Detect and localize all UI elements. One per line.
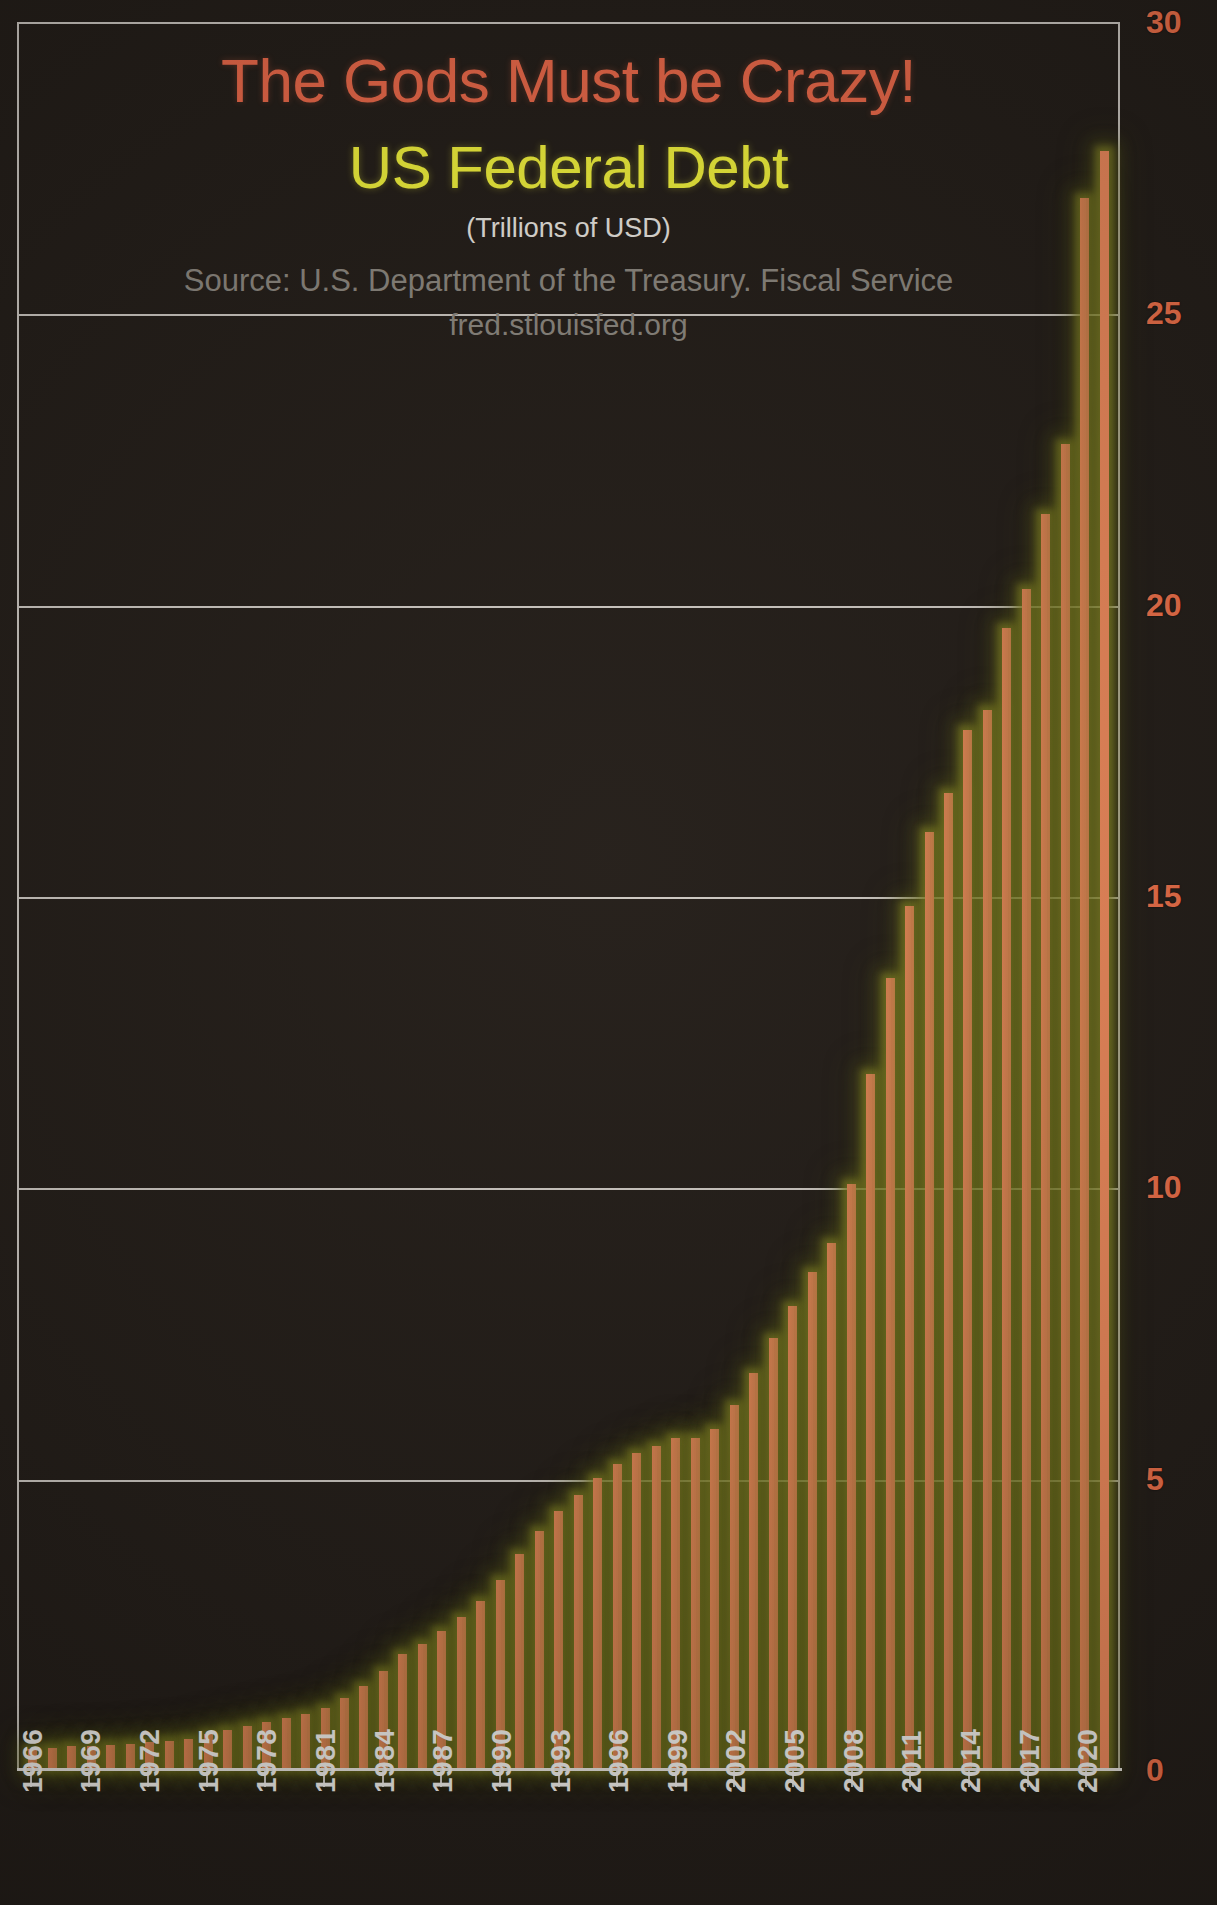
y-tick-label-0: 0 [1146, 1752, 1164, 1789]
y-tick-label-30: 30 [1146, 4, 1182, 41]
bar-slot [958, 24, 977, 1768]
bar-slot [393, 24, 412, 1768]
bar-slot [471, 24, 490, 1768]
y-tick-label-25: 25 [1146, 295, 1182, 332]
x-tick-slot: 1990 [490, 1771, 510, 1905]
bar-slot [549, 24, 568, 1768]
bar [301, 1714, 310, 1768]
bar-slot [81, 24, 100, 1768]
x-tick-slot [392, 1771, 412, 1905]
bar-slot [374, 24, 393, 1768]
bar [944, 793, 953, 1768]
bar-slot [237, 24, 256, 1768]
x-tick-slot: 1969 [80, 1771, 100, 1905]
bar [905, 906, 914, 1768]
bar-slot [666, 24, 685, 1768]
x-tick-slot: 1966 [21, 1771, 41, 1905]
bar-slot [530, 24, 549, 1768]
bar [730, 1405, 739, 1768]
bar-slot [822, 24, 841, 1768]
x-tick-slot: 1984 [373, 1771, 393, 1905]
bar-slot [432, 24, 451, 1768]
bar-slot [120, 24, 139, 1768]
bar [671, 1438, 680, 1768]
bar [632, 1453, 641, 1768]
bar [613, 1464, 622, 1768]
bar [359, 1686, 368, 1768]
x-tick-slot [686, 1771, 706, 1905]
bar-slot [1095, 24, 1114, 1768]
bar-slot [997, 24, 1016, 1768]
bar [574, 1495, 583, 1768]
bar-slot [510, 24, 529, 1768]
bar-slot [159, 24, 178, 1768]
bar-slot [569, 24, 588, 1768]
bar-slot [296, 24, 315, 1768]
bar [866, 1074, 875, 1768]
bar [925, 832, 934, 1768]
x-tick-slot [1096, 1771, 1116, 1905]
x-tick-slot [920, 1771, 940, 1905]
bar-slot [140, 24, 159, 1768]
x-tick-slot: 2020 [1077, 1771, 1097, 1905]
x-tick-slot: 1999 [666, 1771, 686, 1905]
x-tick-slot [41, 1771, 61, 1905]
bar-series [19, 24, 1118, 1768]
bar-slot [647, 24, 666, 1768]
bar [1061, 444, 1070, 1768]
x-tick-slot [216, 1771, 236, 1905]
bar-slot [724, 24, 743, 1768]
bar-slot [783, 24, 802, 1768]
x-tick-slot: 2014 [959, 1771, 979, 1905]
bar [652, 1446, 661, 1768]
bar [184, 1739, 193, 1768]
bar-slot [1036, 24, 1055, 1768]
bar [847, 1184, 856, 1768]
x-tick-slot [862, 1771, 882, 1905]
bar-slot [763, 24, 782, 1768]
x-tick-slot: 2008 [842, 1771, 862, 1905]
x-tick-slot: 1975 [197, 1771, 217, 1905]
x-tick-slot: 2002 [725, 1771, 745, 1905]
bar [886, 978, 895, 1768]
x-tick-slot: 1993 [549, 1771, 569, 1905]
x-tick-slot [744, 1771, 764, 1905]
bar [418, 1644, 427, 1768]
bar-slot [608, 24, 627, 1768]
bar-slot [1056, 24, 1075, 1768]
bar-slot [23, 24, 42, 1768]
x-tick-slot [803, 1771, 823, 1905]
bar [106, 1745, 115, 1768]
x-tick-slot [568, 1771, 588, 1905]
x-tick-slot: 1987 [431, 1771, 451, 1905]
bar-slot [744, 24, 763, 1768]
bar-slot [627, 24, 646, 1768]
bar-slot [354, 24, 373, 1768]
bar [827, 1243, 836, 1768]
x-tick-slot: 2005 [783, 1771, 803, 1905]
x-tick-slot [158, 1771, 178, 1905]
bar [749, 1373, 758, 1768]
x-tick-slot: 2011 [901, 1771, 921, 1905]
bar [1100, 151, 1109, 1768]
bar-slot [101, 24, 120, 1768]
bar [48, 1748, 57, 1768]
bar [963, 730, 972, 1768]
y-tick-label-15: 15 [1146, 878, 1182, 915]
bar-slot [900, 24, 919, 1768]
bar [1002, 628, 1011, 1768]
bar-slot [335, 24, 354, 1768]
y-tick-label-5: 5 [1146, 1460, 1164, 1497]
bar-slot [978, 24, 997, 1768]
x-tick-slot [275, 1771, 295, 1905]
x-tick-slot [1037, 1771, 1057, 1905]
bar-slot [841, 24, 860, 1768]
bar [808, 1272, 817, 1768]
bar-slot [42, 24, 61, 1768]
chart-plot-area [17, 22, 1120, 1770]
x-tick-slot [627, 1771, 647, 1905]
bar-slot [1075, 24, 1094, 1768]
bar-slot [62, 24, 81, 1768]
bar-slot [179, 24, 198, 1768]
bar-slot [315, 24, 334, 1768]
